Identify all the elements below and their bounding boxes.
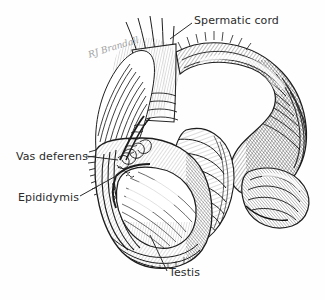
anatomical-figure: Spermatic cord Vas deferens Epididymis T… xyxy=(0,0,325,300)
label-spermatic-cord: Spermatic cord xyxy=(194,14,279,27)
label-testis: Testis xyxy=(169,266,200,279)
label-epididymis: Epididymis xyxy=(18,191,79,204)
label-vas-deferens: Vas deferens xyxy=(16,150,88,163)
glans-prepuce xyxy=(240,160,320,235)
